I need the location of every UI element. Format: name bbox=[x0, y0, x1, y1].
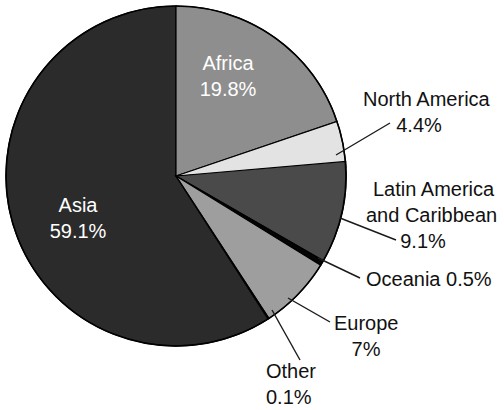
label-africa-name: Africa bbox=[202, 52, 254, 74]
label-north-america-value: 4.4% bbox=[396, 114, 442, 136]
label-asia-name: Asia bbox=[59, 194, 99, 216]
pie-slices bbox=[6, 6, 346, 346]
label-latin-america-line1: Latin America bbox=[373, 178, 495, 200]
label-other-value: 0.1% bbox=[266, 386, 312, 408]
label-africa-value: 19.8% bbox=[200, 78, 257, 100]
leader-line-north-america bbox=[336, 123, 390, 155]
pie-chart-canvas: Africa 19.8% Asia 59.1% North America 4.… bbox=[0, 0, 504, 410]
leader-line-other bbox=[272, 310, 300, 360]
label-latin-america-value: 9.1% bbox=[400, 230, 446, 252]
label-oceania: Oceania 0.5% bbox=[366, 268, 492, 290]
label-europe-name: Europe bbox=[334, 312, 399, 334]
label-other-name: Other bbox=[266, 360, 316, 382]
leader-line-oceania bbox=[318, 258, 360, 278]
pie-chart-figure: Africa 19.8% Asia 59.1% North America 4.… bbox=[0, 0, 504, 410]
label-latin-america-line2: and Caribbean bbox=[366, 204, 497, 226]
leader-line-europe bbox=[288, 298, 330, 322]
label-europe-value: 7% bbox=[352, 338, 381, 360]
label-asia-value: 59.1% bbox=[50, 220, 107, 242]
label-north-america-name: North America bbox=[363, 88, 491, 110]
